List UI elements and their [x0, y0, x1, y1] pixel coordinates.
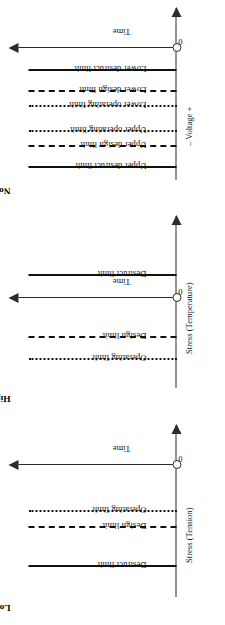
limit-label-lower-operating-limit: Lower operating limit [68, 100, 146, 110]
limit-label-design-limit: Design limit [102, 521, 146, 531]
plot-area-lower-is-best: Lower-is-Best0TimeStress (Tension)Destru… [6, 425, 202, 597]
origin-label-lower-is-best: 0 [178, 454, 182, 463]
limit-label-upper-design-limit: Upper design limit [80, 140, 146, 150]
limit-label-operating-limit: Operating limit [92, 353, 146, 363]
time-axis-arrow-icon [8, 43, 18, 53]
panel-title-nominal-is-best: Nominal-is-Best [0, 186, 10, 196]
time-axis-higher-is-best [18, 297, 176, 298]
x-axis-arrow-icon [171, 215, 181, 225]
chart-panel-higher-is-best: Higher-is-Best0TimeStress (Temperature)O… [0, 208, 225, 416]
chart-canvas-lower-is-best: Lower-is-Best0TimeStress (Tension)Destru… [0, 417, 225, 625]
chart-canvas-higher-is-best: Higher-is-Best0TimeStress (Temperature)O… [0, 208, 225, 416]
time-axis-nominal-is-best [18, 47, 176, 48]
time-axis-lower-is-best [18, 464, 176, 465]
origin-label-nominal-is-best: 0 [178, 37, 182, 46]
stress-axis-label-nominal-is-best: – Voltage + [183, 107, 193, 146]
x-axis-arrow-icon [171, 424, 181, 434]
time-axis-label-nominal-is-best: Time [112, 27, 130, 37]
x-axis-nominal-is-best [175, 8, 176, 180]
chart-panel-lower-is-best: Lower-is-Best0TimeStress (Tension)Destru… [0, 417, 225, 625]
limit-label-destruct-limit: Destruct limit [97, 269, 146, 279]
limit-label-design-limit: Design limit [102, 331, 146, 341]
x-axis-higher-is-best [175, 216, 176, 388]
panel-title-higher-is-best: Higher-is-Best [0, 394, 10, 404]
origin-label-higher-is-best: 0 [178, 287, 182, 296]
limit-label-operating-limit: Operating limit [92, 505, 146, 515]
stress-axis-label-higher-is-best: Stress (Temperature) [183, 282, 193, 354]
panel-title-lower-is-best: Lower-is-Best [0, 603, 10, 613]
limit-label-upper-operating-limit: Upper operating limit [69, 125, 146, 135]
limit-label-lower-destruct-limit: Lower destruct limit [74, 64, 146, 74]
plot-area-higher-is-best: Higher-is-Best0TimeStress (Temperature)O… [6, 216, 202, 388]
time-axis-label-lower-is-best: Time [112, 444, 130, 454]
time-axis-arrow-icon [8, 460, 18, 470]
limit-label-destruct-limit: Destruct limit [97, 560, 146, 570]
limit-label-lower-design-limit: Lower design limit [79, 85, 146, 95]
plot-area-nominal-is-best: Nominal-is-Best0Time– Voltage +Upper des… [6, 8, 202, 180]
stress-axis-label-lower-is-best: Stress (Tension) [183, 508, 193, 564]
limit-label-upper-destruct-limit: Upper destruct limit [75, 161, 146, 171]
chart-panel-nominal-is-best: Nominal-is-Best0Time– Voltage +Upper des… [0, 0, 225, 208]
chart-canvas-nominal-is-best: Nominal-is-Best0Time– Voltage +Upper des… [0, 0, 225, 208]
x-axis-arrow-icon [171, 7, 181, 17]
time-axis-arrow-icon [8, 293, 18, 303]
